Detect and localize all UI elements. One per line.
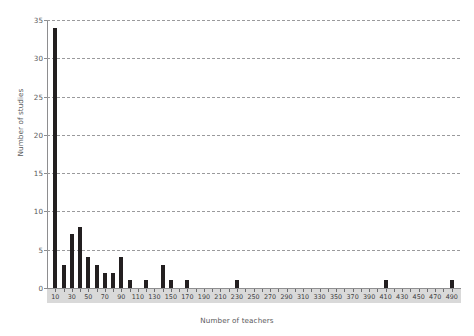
bar <box>70 234 74 288</box>
y-tick-mark <box>44 58 47 59</box>
bar <box>169 280 173 288</box>
x-tick-label: 130 <box>148 293 160 301</box>
x-tick-label: 170 <box>181 293 193 301</box>
x-tick-mark <box>72 289 73 292</box>
x-tick-mark <box>443 289 444 292</box>
x-tick-mark <box>130 289 131 292</box>
y-tick-mark <box>44 250 47 251</box>
bar <box>450 280 454 288</box>
x-tick-mark <box>361 289 362 292</box>
bar <box>119 257 123 288</box>
x-tick-mark <box>113 289 114 292</box>
x-tick-label: 230 <box>231 293 243 301</box>
x-tick-mark <box>262 289 263 292</box>
bar <box>53 28 57 288</box>
gridline <box>47 20 460 21</box>
x-tick-mark <box>386 289 387 292</box>
gridline <box>47 173 460 174</box>
y-tick-mark <box>44 173 47 174</box>
y-tick-label: 30 <box>34 54 43 63</box>
y-tick-mark <box>44 211 47 212</box>
x-tick-mark <box>344 289 345 292</box>
x-tick-label: 330 <box>313 293 325 301</box>
bar <box>144 280 148 288</box>
x-tick-mark <box>220 289 221 292</box>
x-tick-label: 410 <box>380 293 392 301</box>
x-tick-mark <box>88 289 89 292</box>
bar <box>185 280 189 288</box>
gridline <box>47 135 460 136</box>
x-tick-mark <box>64 289 65 292</box>
x-tick-mark <box>452 289 453 292</box>
x-tick-mark <box>402 289 403 292</box>
x-tick-mark <box>295 289 296 292</box>
y-axis-title: Number of studies <box>16 63 25 183</box>
y-tick-label: 0 <box>38 284 43 293</box>
y-tick-mark <box>44 20 47 21</box>
x-tick-band: 1030507090110130150170190210230250270290… <box>47 289 461 303</box>
x-tick-mark <box>287 289 288 292</box>
y-tick-label: 20 <box>34 130 43 139</box>
x-tick-label: 210 <box>214 293 226 301</box>
x-tick-mark <box>121 289 122 292</box>
x-tick-label: 390 <box>363 293 375 301</box>
bar <box>103 273 107 288</box>
x-tick-mark <box>254 289 255 292</box>
histogram-figure: Number of studies 05101520253035 1030507… <box>0 0 474 336</box>
x-tick-label: 50 <box>84 293 92 301</box>
plot-area: 05101520253035 <box>47 20 460 288</box>
x-tick-mark <box>187 289 188 292</box>
bar <box>86 257 90 288</box>
x-tick-mark <box>311 289 312 292</box>
x-tick-label: 350 <box>330 293 342 301</box>
y-tick-mark <box>44 97 47 98</box>
gridline <box>47 97 460 98</box>
x-tick-label: 270 <box>264 293 276 301</box>
x-tick-mark <box>328 289 329 292</box>
bar <box>128 280 132 288</box>
bar <box>78 227 82 288</box>
x-tick-mark <box>237 289 238 292</box>
x-tick-mark <box>196 289 197 292</box>
x-tick-label: 90 <box>117 293 125 301</box>
x-tick-mark <box>154 289 155 292</box>
x-tick-label: 30 <box>68 293 76 301</box>
x-tick-label: 190 <box>198 293 210 301</box>
x-tick-mark <box>278 289 279 292</box>
gridline <box>47 58 460 59</box>
x-tick-label: 70 <box>101 293 109 301</box>
x-tick-mark <box>336 289 337 292</box>
x-tick-mark <box>377 289 378 292</box>
x-tick-mark <box>369 289 370 292</box>
x-tick-label: 450 <box>413 293 425 301</box>
x-tick-mark <box>97 289 98 292</box>
x-tick-mark <box>229 289 230 292</box>
x-tick-label: 370 <box>347 293 359 301</box>
x-tick-mark <box>204 289 205 292</box>
x-tick-label: 290 <box>280 293 292 301</box>
x-tick-mark <box>171 289 172 292</box>
y-tick-mark <box>44 135 47 136</box>
x-tick-mark <box>80 289 81 292</box>
x-tick-mark <box>146 289 147 292</box>
x-tick-mark <box>105 289 106 292</box>
bar <box>235 280 239 288</box>
x-tick-label: 490 <box>446 293 458 301</box>
bar <box>62 265 66 288</box>
x-tick-mark <box>270 289 271 292</box>
bar <box>161 265 165 288</box>
x-tick-label: 150 <box>165 293 177 301</box>
x-tick-mark <box>179 289 180 292</box>
x-axis-title: Number of teachers <box>0 316 474 325</box>
y-tick-label: 10 <box>34 207 43 216</box>
x-tick-mark <box>410 289 411 292</box>
x-tick-mark <box>212 289 213 292</box>
x-tick-mark <box>55 289 56 292</box>
x-tick-mark <box>138 289 139 292</box>
gridline <box>47 211 460 212</box>
x-tick-label: 310 <box>297 293 309 301</box>
x-tick-mark <box>320 289 321 292</box>
x-tick-mark <box>435 289 436 292</box>
y-tick-label: 25 <box>34 92 43 101</box>
x-tick-mark <box>419 289 420 292</box>
